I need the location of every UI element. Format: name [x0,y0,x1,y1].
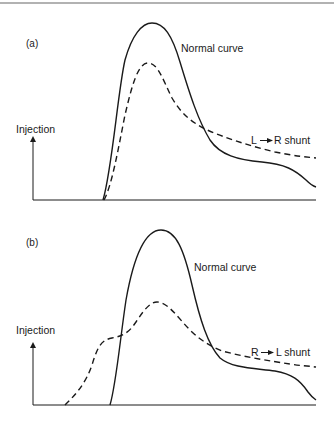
panel-a-y-axis-label: Injection [16,123,55,135]
panel-a-shunt-curve [104,63,316,200]
panel-b-normal-label: Normal curve [194,261,257,273]
panel-a-label: (a) [26,38,38,49]
panel-b-label: (b) [26,237,38,248]
panel-b: (b) Injection Normal curve R L shunt [16,230,316,405]
panel-b-y-axis-label: Injection [16,324,55,336]
panel-b-shunt-label-left: R [251,346,259,358]
panel-b-shunt-label-right: L shunt [276,346,310,358]
panel-a-normal-label: Normal curve [181,42,244,54]
panel-b-shunt-label: R L shunt [251,346,310,358]
panel-b-normal-curve [110,230,316,405]
indicator-dilution-figure: (a) Injection Normal curve L R shunt (b)… [0,0,334,425]
panel-a-shunt-label: L R shunt [251,134,310,146]
panel-a-shunt-label-right: R shunt [274,134,310,146]
panel-a-shunt-label-left: L [251,134,257,146]
panel-a: (a) Injection Normal curve L R shunt [16,23,316,200]
